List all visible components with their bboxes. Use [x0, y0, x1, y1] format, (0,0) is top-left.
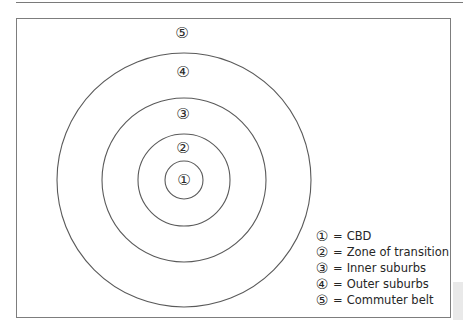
- legend-number: ③: [314, 260, 330, 276]
- legend: ① = CBD ② = Zone of transition ③ = Inner…: [314, 228, 449, 308]
- legend-item-inner-suburbs: ③ = Inner suburbs: [314, 260, 449, 276]
- ring-label-3: ③: [176, 107, 189, 122]
- legend-item-cbd: ① = CBD: [314, 228, 449, 244]
- legend-text: Commuter belt: [347, 293, 434, 307]
- legend-number: ⑤: [314, 292, 330, 308]
- legend-item-zone-of-transition: ② = Zone of transition: [314, 244, 449, 260]
- legend-text: Outer suburbs: [347, 277, 429, 291]
- legend-item-outer-suburbs: ④ = Outer suburbs: [314, 276, 449, 292]
- ring-label-4: ④: [176, 65, 189, 80]
- legend-equals: =: [333, 293, 343, 307]
- legend-number: ②: [314, 244, 330, 260]
- legend-equals: =: [333, 277, 343, 291]
- legend-equals: =: [333, 245, 343, 259]
- legend-text: Inner suburbs: [347, 261, 426, 275]
- ring-label-1: ①: [177, 173, 190, 188]
- legend-number: ④: [314, 276, 330, 292]
- legend-equals: =: [333, 229, 343, 243]
- ring-label-5: ⑤: [175, 26, 188, 41]
- legend-item-commuter-belt: ⑤ = Commuter belt: [314, 292, 449, 308]
- legend-equals: =: [333, 261, 343, 275]
- legend-text: CBD: [347, 229, 372, 243]
- legend-text: Zone of transition: [347, 245, 449, 259]
- legend-number: ①: [314, 228, 330, 244]
- ring-label-2: ②: [176, 141, 189, 156]
